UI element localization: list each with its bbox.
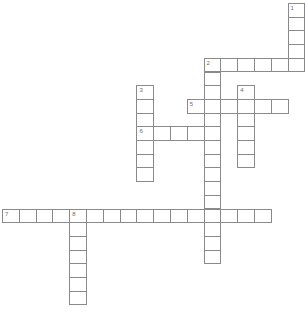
grid-cell[interactable] — [69, 277, 87, 292]
grid-cell[interactable] — [69, 291, 87, 306]
grid-cell[interactable] — [204, 99, 222, 114]
grid-cell[interactable] — [204, 209, 222, 224]
grid-cell[interactable] — [170, 209, 188, 224]
grid-cell[interactable] — [237, 209, 255, 224]
grid-cell[interactable] — [237, 58, 255, 73]
grid-cell[interactable] — [204, 167, 222, 182]
clue-number: 7 — [5, 211, 8, 217]
grid-cell[interactable] — [69, 250, 87, 265]
grid-cell[interactable] — [69, 263, 87, 278]
grid-cell[interactable] — [237, 99, 255, 114]
clue-number: 5 — [190, 101, 193, 107]
grid-cell[interactable] — [153, 209, 171, 224]
grid-cell[interactable] — [220, 58, 238, 73]
grid-cell-start-3[interactable]: 3 — [136, 85, 154, 100]
grid-cell[interactable] — [86, 209, 104, 224]
grid-cell[interactable] — [288, 30, 306, 45]
crossword-grid: 12364578 — [0, 0, 308, 315]
grid-cell[interactable] — [136, 113, 154, 128]
grid-cell[interactable] — [220, 209, 238, 224]
grid-cell[interactable] — [204, 154, 222, 169]
grid-cell[interactable] — [237, 113, 255, 128]
grid-cell[interactable] — [136, 167, 154, 182]
grid-cell[interactable] — [19, 209, 37, 224]
clue-number: 3 — [139, 87, 142, 93]
grid-cell[interactable] — [254, 58, 272, 73]
grid-cell[interactable] — [187, 126, 205, 141]
grid-cell[interactable] — [204, 222, 222, 237]
grid-cell[interactable] — [271, 99, 289, 114]
grid-cell-start-6[interactable]: 6 — [136, 126, 154, 141]
grid-cell[interactable] — [204, 85, 222, 100]
clue-number: 2 — [207, 60, 210, 66]
grid-cell[interactable] — [254, 209, 272, 224]
grid-cell[interactable] — [204, 195, 222, 210]
clue-number: 6 — [139, 128, 142, 134]
grid-cell[interactable] — [136, 140, 154, 155]
clue-number: 1 — [291, 5, 294, 11]
grid-cell[interactable] — [204, 126, 222, 141]
grid-cell[interactable] — [288, 44, 306, 59]
clue-number: 4 — [240, 87, 243, 93]
grid-cell[interactable] — [204, 72, 222, 87]
grid-cell[interactable] — [120, 209, 138, 224]
grid-cell[interactable] — [204, 113, 222, 128]
grid-cell[interactable] — [136, 209, 154, 224]
grid-cell[interactable] — [204, 181, 222, 196]
grid-cell[interactable] — [103, 209, 121, 224]
grid-cell[interactable] — [254, 99, 272, 114]
grid-cell-start-8[interactable]: 8 — [69, 209, 87, 224]
grid-cell[interactable] — [136, 99, 154, 114]
grid-cell[interactable] — [220, 99, 238, 114]
grid-cell-start-1[interactable]: 1 — [288, 3, 306, 18]
grid-cell[interactable] — [52, 209, 70, 224]
grid-cell[interactable] — [271, 58, 289, 73]
clue-number: 8 — [72, 211, 75, 217]
grid-cell[interactable] — [69, 222, 87, 237]
grid-cell-start-5[interactable]: 5 — [187, 99, 205, 114]
grid-cell[interactable] — [187, 209, 205, 224]
grid-cell[interactable] — [136, 154, 154, 169]
grid-cell[interactable] — [237, 154, 255, 169]
grid-cell[interactable] — [36, 209, 54, 224]
grid-cell[interactable] — [170, 126, 188, 141]
grid-cell[interactable] — [153, 126, 171, 141]
grid-cell[interactable] — [69, 236, 87, 251]
grid-cell-start-7[interactable]: 7 — [2, 209, 20, 224]
grid-cell[interactable] — [204, 236, 222, 251]
grid-cell[interactable] — [288, 58, 306, 73]
grid-cell[interactable] — [204, 140, 222, 155]
grid-cell-start-4[interactable]: 4 — [237, 85, 255, 100]
grid-cell[interactable] — [288, 17, 306, 32]
grid-cell[interactable] — [204, 250, 222, 265]
grid-cell-start-2[interactable]: 2 — [204, 58, 222, 73]
grid-cell[interactable] — [237, 140, 255, 155]
grid-cell[interactable] — [237, 126, 255, 141]
